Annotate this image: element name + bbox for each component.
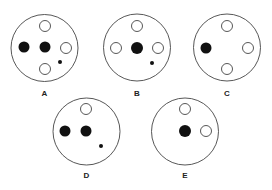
open-circle: [180, 104, 191, 115]
circle-diagram: ABCDE: [0, 0, 272, 190]
filled-circle: [201, 43, 212, 54]
filled-circle: [179, 125, 191, 137]
open-circle: [132, 21, 143, 32]
filled-circle: [81, 126, 92, 137]
panel-label: A: [42, 89, 48, 98]
open-circle: [222, 21, 233, 32]
panel-label: D: [84, 171, 90, 180]
panel-label: E: [182, 171, 188, 180]
filled-circle: [60, 126, 71, 137]
open-circle: [81, 104, 92, 115]
open-circle: [61, 43, 72, 54]
open-circle: [222, 64, 233, 75]
panel-label: B: [134, 89, 140, 98]
small-dot: [58, 60, 62, 64]
small-dot: [99, 144, 103, 148]
filled-circle: [40, 42, 51, 53]
panel-c: C: [194, 14, 261, 98]
filled-circle: [19, 42, 30, 53]
panel-e: E: [152, 98, 219, 180]
open-circle: [40, 64, 51, 75]
small-dot: [150, 61, 154, 65]
open-circle: [153, 43, 164, 54]
open-circle: [243, 43, 254, 54]
panel-d: D: [53, 98, 120, 180]
panel-b: B: [104, 14, 171, 98]
open-circle: [40, 21, 51, 32]
filled-circle: [131, 42, 143, 54]
open-circle: [201, 126, 212, 137]
panel-label: C: [224, 89, 230, 98]
open-circle: [111, 43, 122, 54]
panel-a: A: [11, 15, 78, 99]
